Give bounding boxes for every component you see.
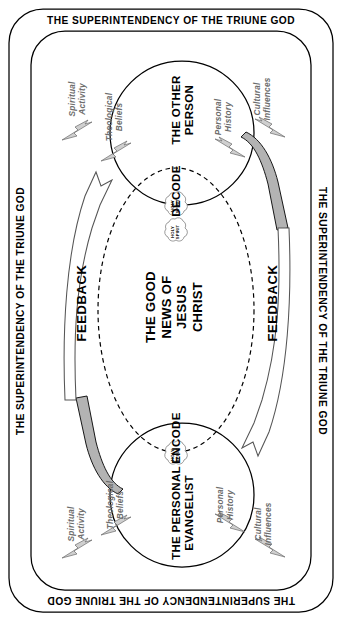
diagram-vector-layer: .stroke{fill:none;stroke:#000;stroke-wid…	[0, 0, 342, 621]
message-flow-band-top	[241, 132, 288, 230]
influence-bolt-spiritual-activity-bottom	[62, 538, 92, 558]
holy-spirit-cloud-3	[165, 441, 188, 464]
diagram-canvas: .stroke{fill:none;stroke:#000;stroke-wid…	[0, 0, 342, 621]
influence-bolt-theological-beliefs-top	[101, 141, 131, 161]
influence-bolt-personal-history-top	[215, 137, 245, 157]
feedback-arrow-left	[64, 172, 112, 400]
holy-spirit-cloud-1	[165, 192, 188, 215]
message-flow-band-bottom	[76, 396, 123, 494]
holy-spirit-cloud-2	[165, 218, 188, 241]
influence-bolt-spiritual-activity-top	[62, 120, 92, 140]
other-person-circle	[110, 61, 254, 205]
influence-bolt-cultural-influences-top	[255, 117, 285, 137]
influence-bolt-cultural-influences-bottom	[255, 537, 285, 557]
influence-bolt-personal-history-bottom	[215, 512, 245, 532]
